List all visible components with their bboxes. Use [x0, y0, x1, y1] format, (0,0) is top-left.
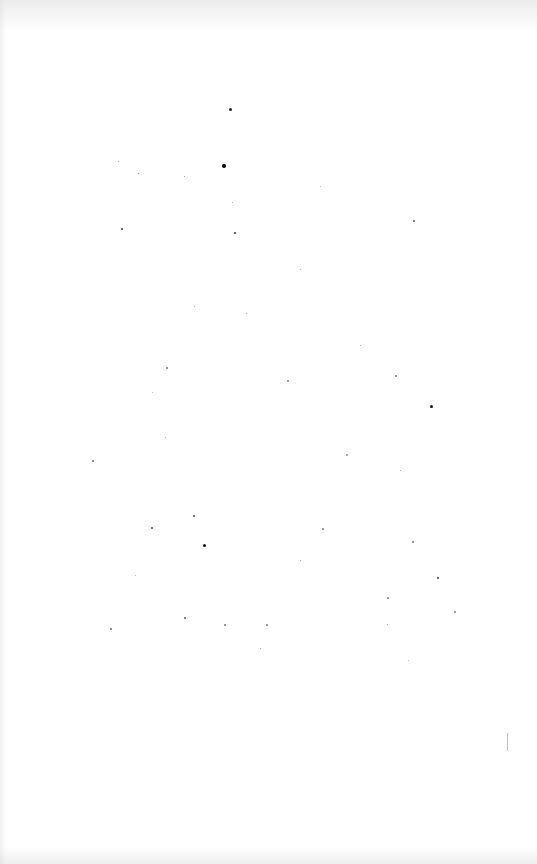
scan-artifact-mark [507, 733, 508, 751]
noise-speck [395, 375, 397, 377]
noise-speck [322, 528, 324, 530]
noise-speck [152, 392, 153, 393]
noise-speck [194, 306, 195, 307]
noise-speck [266, 624, 268, 626]
scanned-page [0, 0, 537, 864]
noise-speck [413, 220, 415, 222]
scan-shadow-bottom [0, 846, 537, 864]
noise-speck [346, 454, 348, 456]
scan-shadow-left [0, 0, 6, 864]
noise-speck [203, 544, 206, 547]
scan-shadow-top [0, 0, 537, 30]
noise-speck [300, 269, 301, 270]
noise-speck [320, 186, 321, 187]
noise-speck [360, 345, 361, 346]
noise-speck [138, 173, 139, 174]
noise-speck [224, 624, 226, 626]
noise-speck [287, 380, 289, 382]
noise-speck [260, 648, 261, 649]
noise-speck [387, 624, 388, 625]
noise-speck [166, 367, 168, 369]
noise-speck [193, 515, 195, 517]
noise-speck [234, 232, 236, 234]
noise-speck [437, 577, 439, 579]
noise-speck [222, 164, 226, 168]
noise-speck [232, 202, 233, 203]
noise-speck [151, 527, 153, 529]
noise-speck [118, 161, 119, 162]
noise-speck [246, 313, 247, 314]
noise-speck [229, 108, 232, 111]
noise-speck [408, 660, 409, 661]
noise-speck [400, 470, 401, 471]
noise-speck [165, 437, 166, 438]
noise-speck [300, 560, 301, 561]
noise-speck [430, 405, 433, 408]
noise-speck [110, 628, 112, 630]
noise-speck [184, 176, 185, 177]
noise-speck [454, 611, 456, 613]
noise-speck [92, 460, 94, 462]
noise-speck [387, 597, 389, 599]
noise-speck [135, 575, 136, 576]
noise-speck [184, 617, 186, 619]
noise-speck [121, 228, 123, 230]
noise-speck [412, 541, 414, 543]
